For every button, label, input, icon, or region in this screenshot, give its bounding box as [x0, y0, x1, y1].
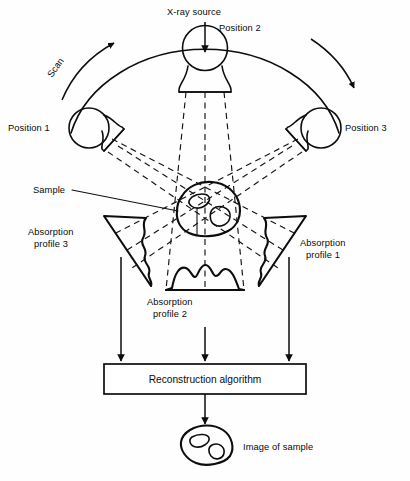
- beam-fan-position-1: [108, 139, 296, 268]
- label-absorption-profile-1-line2: profile 1: [306, 250, 340, 260]
- sample-object[interactable]: [177, 182, 240, 236]
- image-of-sample-shape: [181, 426, 233, 465]
- scan-arrow-right: [311, 39, 354, 88]
- label-xray-source: X-ray source: [167, 7, 221, 17]
- scan-arc: [71, 49, 339, 133]
- ct-diagram: X-ray source Position 2 Position 1 Posit…: [0, 0, 410, 481]
- position-3-head[interactable]: [286, 108, 341, 151]
- label-position-1: Position 1: [8, 123, 50, 133]
- label-scan: Scan: [45, 56, 65, 79]
- ct-diagram-canvas: X-ray source Position 2 Position 1 Posit…: [0, 0, 410, 481]
- label-reconstruction-algorithm: Reconstruction algorithm: [149, 374, 262, 385]
- label-sample: Sample: [33, 185, 65, 195]
- label-absorption-profile-3-line2: profile 3: [34, 239, 68, 249]
- label-position-2: Position 2: [219, 23, 261, 33]
- position-1-head[interactable]: [69, 108, 124, 151]
- label-absorption-profile-2-line1: Absorption: [147, 297, 192, 307]
- label-absorption-profile-1-line1: Absorption: [300, 238, 345, 248]
- sample-leader-line: [72, 190, 178, 211]
- scan-arrow-left: [62, 43, 114, 100]
- label-position-3: Position 3: [345, 123, 387, 133]
- label-image-of-sample: Image of sample: [243, 442, 313, 452]
- label-absorption-profile-3-line1: Absorption: [28, 227, 73, 237]
- label-absorption-profile-2-line2: profile 2: [153, 309, 187, 319]
